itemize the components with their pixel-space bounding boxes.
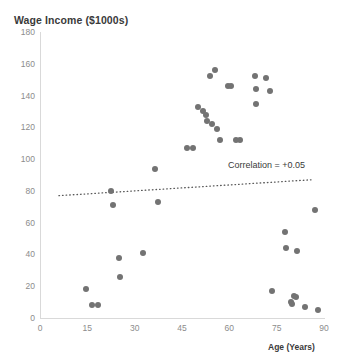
x-axis-tick-label: 15 <box>83 323 92 333</box>
data-point <box>214 126 220 132</box>
x-axis-tick-label: 90 <box>319 323 328 333</box>
y-axis-tick-label: 160 <box>21 59 35 69</box>
x-axis-title: Age (Years) <box>268 342 315 352</box>
y-axis-tick-label: 100 <box>21 154 35 164</box>
data-point <box>315 307 321 313</box>
data-point <box>228 83 234 89</box>
y-axis-tick-label: 0 <box>30 313 35 323</box>
data-point <box>263 75 269 81</box>
data-point <box>302 304 308 310</box>
data-point <box>140 250 146 256</box>
y-axis-tick-labels: 020406080100120140160180 <box>0 0 35 362</box>
data-point <box>116 255 122 261</box>
data-point <box>253 101 259 107</box>
data-point <box>155 199 161 205</box>
data-point <box>207 73 213 79</box>
data-point <box>212 67 218 73</box>
x-axis-tick-label: 75 <box>272 323 281 333</box>
data-point <box>95 302 101 308</box>
data-point <box>293 294 299 300</box>
data-point <box>294 248 300 254</box>
data-point <box>289 301 295 307</box>
data-point <box>110 202 116 208</box>
data-point <box>83 286 89 292</box>
trendline <box>40 32 324 318</box>
y-axis-tick-label: 140 <box>21 91 35 101</box>
data-point <box>117 274 123 280</box>
x-axis-tick-label: 0 <box>38 323 43 333</box>
data-point <box>184 145 190 151</box>
x-axis-tick-label: 45 <box>177 323 186 333</box>
data-point <box>312 207 318 213</box>
y-axis-tick-label: 120 <box>21 122 35 132</box>
data-point <box>237 137 243 143</box>
y-axis-tick-label: 20 <box>26 281 35 291</box>
x-axis-line <box>40 318 325 319</box>
data-point <box>89 302 95 308</box>
data-point <box>283 245 289 251</box>
data-point <box>282 229 288 235</box>
data-point <box>152 166 158 172</box>
data-point <box>217 137 223 143</box>
scatter-chart: Wage Income ($1000s) 0204060801001201401… <box>0 0 339 362</box>
data-point <box>252 73 258 79</box>
data-point <box>203 112 209 118</box>
correlation-annotation: Correlation = +0.05 <box>228 160 305 170</box>
y-axis-tick-label: 40 <box>26 249 35 259</box>
y-axis-tick-label: 80 <box>26 186 35 196</box>
data-point <box>269 288 275 294</box>
data-point <box>267 88 273 94</box>
data-point <box>108 188 114 194</box>
plot-area <box>40 32 324 318</box>
y-axis-tick-label: 180 <box>21 27 35 37</box>
x-axis-tick-label: 60 <box>225 323 234 333</box>
y-axis-tick-label: 60 <box>26 218 35 228</box>
x-axis-tick-label: 30 <box>130 323 139 333</box>
data-point <box>190 145 196 151</box>
data-point <box>253 86 259 92</box>
